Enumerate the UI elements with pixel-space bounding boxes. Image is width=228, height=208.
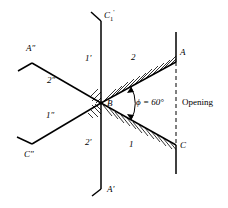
hatching-lower-face <box>103 105 178 152</box>
label-vertex-b: B <box>107 99 113 108</box>
ray-2-prime <box>92 103 101 196</box>
label-line-1-prime: 1' <box>85 54 91 63</box>
label-line-2: 2 <box>131 53 136 62</box>
hatching-upper-face <box>104 55 180 101</box>
ray-2-double-prime <box>18 63 101 103</box>
label-a-double-prime: A″ <box>26 44 35 53</box>
ray-1 <box>101 103 176 174</box>
label-point-a: A <box>180 48 186 57</box>
label-opening: Opening <box>182 98 213 107</box>
label-angle-phi: ϕ = 60° <box>136 98 164 107</box>
label-line-2-double-prime: 2″ <box>47 76 55 85</box>
label-c1-prime-sup: ' <box>113 8 114 16</box>
label-point-c: C <box>180 141 186 150</box>
label-line-1-double-prime: 1″ <box>46 111 54 120</box>
label-c-double-prime: C″ <box>24 150 34 159</box>
label-line-2-prime: 2' <box>85 138 91 147</box>
label-line-1: 1 <box>129 140 134 149</box>
physics-diagram-figure: C1' A″ C″ A C A' 1' 2' 2 1 2″ 1″ B ϕ = 6… <box>0 0 228 208</box>
ray-1-prime <box>91 12 101 103</box>
label-a-prime: A' <box>107 185 114 194</box>
vertex-point-b <box>99 101 102 104</box>
label-c1-prime: C1' <box>104 9 115 22</box>
hatching-center-upper <box>90 89 101 103</box>
